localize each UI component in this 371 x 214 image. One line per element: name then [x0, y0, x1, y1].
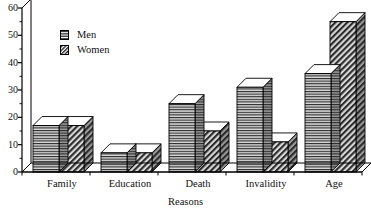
legend-item-men: Men: [60, 28, 109, 41]
legend-label-men: Men: [77, 29, 96, 40]
bar-3d: [101, 144, 136, 172]
y-tick-label: 10: [0, 140, 18, 150]
y-tick-label: 0: [0, 167, 18, 177]
x-axis-title: Reasons: [0, 196, 371, 207]
bar-3d: [33, 117, 68, 172]
horizontal-lines-swatch: [60, 30, 69, 40]
diagonal-hatch-swatch: [60, 45, 69, 55]
chart-legend: Men Women: [60, 28, 109, 58]
bar-3d: [305, 65, 340, 172]
bar-3d: [237, 78, 272, 172]
y-tick-label: 50: [0, 30, 18, 40]
y-tick-label: 60: [0, 3, 18, 13]
x-tick-label: Age: [294, 178, 371, 189]
chart-root: 0102030405060 FamilyEducationDeathInvali…: [0, 0, 371, 214]
bar-chart: 0102030405060 FamilyEducationDeathInvali…: [0, 0, 371, 214]
bar-3d: [169, 95, 204, 172]
legend-label-women: Women: [77, 44, 109, 55]
y-tick-label: 20: [0, 112, 18, 122]
y-tick-label: 40: [0, 58, 18, 68]
legend-item-women: Women: [60, 43, 109, 56]
y-tick-label: 30: [0, 85, 18, 95]
